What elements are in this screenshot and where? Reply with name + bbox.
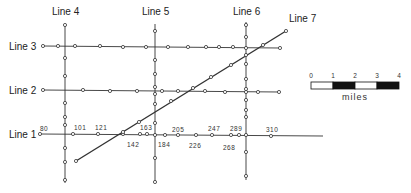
line-1	[40, 134, 323, 136]
station-point	[244, 150, 247, 153]
station-point	[121, 130, 124, 133]
station-point	[261, 43, 264, 46]
station-point	[153, 29, 156, 32]
station-point	[81, 88, 84, 91]
station-point	[244, 133, 247, 136]
station-point	[144, 45, 147, 48]
station-point	[73, 44, 76, 47]
station-point	[166, 45, 169, 48]
station-label: 80	[40, 125, 48, 132]
station-point	[98, 44, 101, 47]
station-point	[223, 90, 226, 93]
station-point	[278, 46, 281, 49]
station-labels: 80101121142163184205226247268289310	[40, 124, 278, 151]
station-point	[153, 102, 156, 105]
station-point	[138, 132, 141, 135]
scale-tick-label: 2	[353, 72, 357, 79]
station-point	[209, 75, 212, 78]
station-point	[191, 86, 194, 89]
station-point	[176, 89, 179, 92]
station-point	[38, 132, 41, 135]
station-point	[63, 123, 66, 126]
station-label: 142	[127, 141, 139, 148]
station-point	[169, 99, 172, 102]
station-point	[229, 63, 232, 66]
line-4-label: Line 4	[52, 6, 80, 17]
station-label: 310	[266, 126, 278, 133]
scale-tick-label: 3	[375, 72, 379, 79]
station-point	[96, 132, 99, 135]
station-point	[63, 74, 66, 77]
station-point	[63, 160, 66, 163]
scale-segment	[355, 82, 377, 89]
station-point	[153, 133, 156, 136]
station-point	[153, 72, 156, 75]
station-point	[284, 29, 287, 32]
station-label: 268	[223, 144, 235, 151]
scale-segment	[311, 82, 333, 89]
scale-segment	[333, 82, 355, 89]
line-7-label: Line 7	[289, 13, 317, 24]
station-label: 121	[95, 124, 107, 131]
station-label: 184	[158, 141, 170, 148]
station-point	[63, 101, 66, 104]
station-point	[56, 44, 59, 47]
station-point	[244, 115, 247, 118]
station-point	[153, 92, 156, 95]
station-point	[244, 23, 247, 26]
station-point	[63, 146, 66, 149]
station-point	[153, 156, 156, 159]
station-point	[176, 133, 179, 136]
station-point	[41, 88, 44, 91]
station-point	[74, 159, 77, 162]
station-point	[277, 90, 280, 93]
line-7	[76, 31, 286, 161]
station-point	[135, 89, 138, 92]
station-point	[217, 45, 220, 48]
station-point	[194, 133, 197, 136]
line-5-label: Line 5	[142, 6, 170, 17]
station-point	[41, 44, 44, 47]
station-point	[63, 56, 66, 59]
station-point	[121, 45, 124, 48]
station-point	[204, 45, 207, 48]
station-point	[63, 115, 66, 118]
line-3-label: Line 3	[9, 41, 37, 52]
station-point	[244, 62, 247, 65]
station-point	[210, 133, 213, 136]
station-point	[244, 77, 247, 80]
station-label: 205	[172, 126, 184, 133]
station-point	[244, 35, 247, 38]
station-point	[153, 85, 156, 88]
line-2-label: Line 2	[9, 85, 37, 96]
station-point	[145, 132, 148, 135]
station-point	[231, 45, 234, 48]
station-label: 226	[189, 142, 201, 149]
scale-tick-label: 0	[309, 72, 313, 79]
station-point	[203, 89, 206, 92]
station-point	[244, 46, 247, 49]
station-point	[153, 180, 156, 183]
station-point	[108, 89, 111, 92]
scale-segment	[377, 82, 399, 89]
station-point	[244, 98, 247, 101]
station-point	[186, 45, 189, 48]
line-6-label: Line 6	[233, 6, 261, 17]
station-point	[244, 87, 247, 90]
station-label: 247	[208, 125, 220, 132]
station-point	[153, 121, 156, 124]
station-point	[153, 58, 156, 61]
station-point	[237, 133, 240, 136]
station-label: 163	[140, 124, 152, 131]
station-point	[160, 89, 163, 92]
station-point	[244, 108, 247, 111]
station-point	[63, 23, 66, 26]
station-point	[71, 132, 74, 135]
station-point	[269, 134, 272, 137]
station-point	[244, 53, 247, 56]
scale-tick-label: 1	[331, 72, 335, 79]
station-point	[163, 133, 166, 136]
line-1-label: Line 1	[9, 129, 37, 140]
station-point	[63, 178, 66, 181]
station-point	[256, 90, 259, 93]
